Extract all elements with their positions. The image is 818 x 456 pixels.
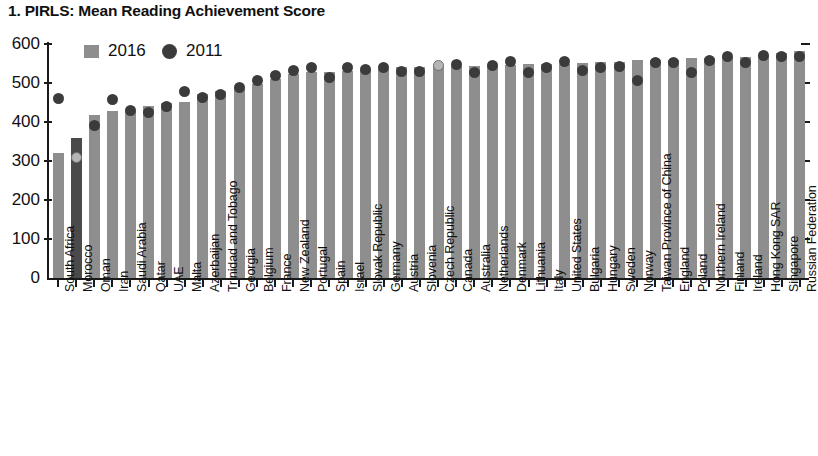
x-axis-tick-mark [347, 280, 349, 287]
x-axis-tick-mark [166, 280, 168, 287]
x-axis-tick-mark [727, 280, 729, 287]
bar-2016 [559, 64, 570, 278]
legend-item-2016: 2016 [84, 40, 146, 62]
dot-2011 [758, 50, 769, 61]
x-axis-tick-mark [654, 280, 656, 287]
x-axis-tick-mark [618, 280, 620, 287]
x-axis-category-label: Taiwan Province of China [660, 153, 674, 292]
x-axis-category-label: Slovak Republic [371, 204, 385, 292]
bar-2016 [179, 102, 190, 278]
dot-2011 [632, 75, 643, 86]
legend-item-2011: 2011 [162, 40, 223, 62]
x-axis-tick-mark [600, 280, 602, 287]
y-axis-tick-label: 100 [0, 229, 40, 249]
dot-2011 [433, 60, 444, 71]
dot-2011 [704, 55, 715, 66]
x-axis-tick-mark [419, 280, 421, 287]
x-axis-tick-mark [582, 280, 584, 287]
x-axis-tick-mark [93, 280, 95, 287]
x-axis-tick-mark [202, 280, 204, 287]
dot-2011 [53, 93, 64, 104]
x-axis-tick-mark [437, 280, 439, 287]
page-title: 1. PIRLS: Mean Reading Achievement Score [8, 2, 325, 20]
bar-2016 [758, 56, 769, 278]
x-axis-tick-mark [491, 280, 493, 287]
dot-2011 [541, 62, 552, 73]
legend-label-2016: 2016 [108, 41, 146, 61]
x-axis-tick-mark [690, 280, 692, 287]
x-axis-tick-mark [292, 280, 294, 287]
y-axis-tick-mark [44, 121, 52, 123]
legend-square-icon [84, 45, 99, 58]
x-axis-tick-mark [75, 280, 77, 287]
x-axis-tick-mark [564, 280, 566, 287]
x-axis-category-label: Spain [334, 261, 348, 292]
x-axis-tick-mark [129, 280, 131, 287]
dot-2011 [107, 94, 118, 105]
y-axis-tick-mark [44, 238, 52, 240]
dot-2011 [614, 61, 625, 72]
bar-2016 [414, 67, 425, 278]
x-axis-tick-mark [238, 280, 240, 287]
legend-label-2011: 2011 [186, 41, 223, 61]
bar-2016 [740, 57, 751, 278]
x-axis-category-label: Hong Kong SAR [769, 202, 783, 292]
x-axis-category-label: Qatar [154, 261, 168, 292]
bar-2016 [595, 62, 606, 278]
dot-2011 [252, 75, 263, 86]
x-axis-tick-mark [111, 280, 113, 287]
y-axis-tick-label: 300 [0, 151, 40, 171]
x-axis-tick-mark [383, 280, 385, 287]
bar-2016 [686, 58, 697, 278]
dot-2011 [668, 57, 679, 68]
dot-2011 [469, 67, 480, 78]
y-axis-tick-label: 400 [0, 112, 40, 132]
x-axis-tick-mark [528, 280, 530, 287]
bar-2016 [53, 153, 64, 278]
dot-2011 [451, 59, 462, 70]
x-axis-category-label: Malta [190, 262, 204, 292]
dot-2011 [650, 57, 661, 68]
x-axis-tick-mark [799, 280, 801, 287]
dot-2011 [487, 60, 498, 71]
x-axis-tick-mark [256, 280, 258, 287]
x-axis-tick-mark [365, 280, 367, 287]
legend-circle-icon [162, 44, 177, 59]
bar-2016 [360, 69, 371, 278]
y-axis-tick-mark [44, 199, 52, 201]
x-axis-tick-mark [274, 280, 276, 287]
x-axis-tick-mark [781, 280, 783, 287]
dot-2011 [306, 62, 317, 73]
bar-2016 [197, 94, 208, 278]
dot-2011 [179, 86, 190, 97]
dot-2011 [360, 64, 371, 75]
x-axis-tick-mark [184, 280, 186, 287]
x-axis-tick-mark [473, 280, 475, 287]
x-axis-tick-mark [455, 280, 457, 287]
dot-2011 [89, 120, 100, 131]
y-axis-tick-mark-right [801, 43, 810, 45]
x-axis-tick-mark [148, 280, 150, 287]
dot-2011 [125, 105, 136, 116]
dot-2011 [342, 62, 353, 73]
dot-2011 [722, 51, 733, 62]
x-axis-tick-mark [708, 280, 710, 287]
chart-figure: 1. PIRLS: Mean Reading Achievement Score… [0, 0, 818, 456]
dot-2011 [378, 62, 389, 73]
x-axis-tick-mark [636, 280, 638, 287]
y-axis-tick-mark [44, 43, 52, 45]
dot-2011 [143, 107, 154, 118]
bar-2016 [632, 60, 643, 278]
x-axis-tick-mark [220, 280, 222, 287]
x-axis-category-label: Northern Ireland [714, 203, 728, 292]
x-axis-tick-mark [745, 280, 747, 287]
x-axis-tick-mark [546, 280, 548, 287]
x-axis-tick-mark [57, 280, 59, 287]
y-axis-tick-label: 0 [0, 268, 40, 288]
x-axis-category-label: Russian Federation [805, 185, 818, 292]
y-axis-tick-mark [44, 82, 52, 84]
x-axis-tick-mark [401, 280, 403, 287]
dot-2011 [559, 56, 570, 67]
x-axis-tick-mark [509, 280, 511, 287]
dot-2011 [71, 152, 82, 163]
